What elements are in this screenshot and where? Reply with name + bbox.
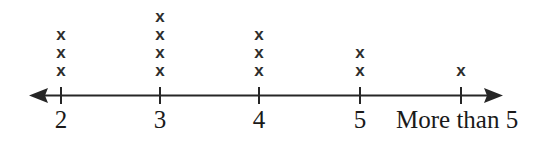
axis-left-arrowhead [29, 88, 48, 103]
x-mark: x [254, 26, 263, 44]
x-mark: x [155, 26, 164, 44]
x-mark: x [355, 44, 364, 62]
x-mark: x [155, 44, 164, 62]
x-mark: x [456, 62, 465, 80]
axis-label-4: 4 [253, 104, 266, 136]
x-mark: x [254, 44, 263, 62]
axis-right-arrowhead [484, 88, 503, 103]
x-mark: x [155, 62, 164, 80]
x-mark: x [355, 62, 364, 80]
x-stack-column-5: x x [340, 44, 380, 80]
x-stack-column-more-than-5: x [441, 62, 481, 80]
x-mark: x [254, 62, 263, 80]
x-stack-column-2: x x x [41, 26, 81, 80]
axis-label-3: 3 [154, 104, 167, 136]
x-mark: x [56, 26, 65, 44]
x-mark: x [155, 8, 164, 26]
x-mark: x [56, 44, 65, 62]
x-stack-column-3: x x x x [140, 8, 180, 80]
axis-label-2: 2 [55, 104, 68, 136]
axis-label-more-than-5: More than 5 [396, 104, 518, 136]
x-mark: x [56, 62, 65, 80]
x-stack-column-4: x x x [239, 26, 279, 80]
axis-label-5: 5 [354, 104, 367, 136]
dot-plot-figure: x x x x x x x x x x x x x 2 3 4 5 More t… [0, 0, 550, 151]
